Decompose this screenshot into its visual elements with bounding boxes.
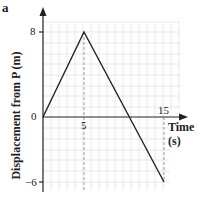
x-axis-title-1: Time bbox=[168, 120, 194, 135]
y-tick-0: 0 bbox=[31, 110, 37, 122]
y-axis-arrow-icon bbox=[40, 7, 47, 16]
y-tick-8: 8 bbox=[30, 25, 36, 37]
y-tick-neg6: −6 bbox=[25, 176, 37, 188]
panel-label: a bbox=[2, 0, 9, 16]
x-axis-title-2: (s) bbox=[168, 134, 181, 149]
axes bbox=[39, 10, 182, 192]
x-tick-5: 5 bbox=[81, 119, 87, 131]
x-tick-15: 15 bbox=[158, 104, 169, 116]
y-axis-title: Displacement from P (m) bbox=[9, 36, 24, 196]
